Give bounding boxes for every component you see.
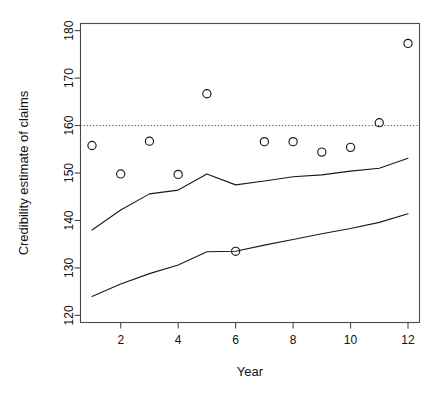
y-tick-label-150: 150 (62, 163, 76, 183)
y-tick-label-180: 180 (62, 20, 76, 40)
x-tick-label-6: 6 (232, 333, 239, 347)
x-tick-label-8: 8 (290, 333, 297, 347)
y-tick-label-120: 120 (62, 305, 76, 325)
x-tick-label-12: 12 (401, 333, 415, 347)
chart-background (0, 0, 434, 397)
y-tick-label-160: 160 (62, 115, 76, 135)
x-tick-label-2: 2 (117, 333, 124, 347)
y-tick-label-130: 130 (62, 258, 76, 278)
chart-svg: 120130140150160170180 24681012 Year Cred… (0, 0, 434, 397)
y-tick-label-140: 140 (62, 210, 76, 230)
x-tick-label-10: 10 (344, 333, 358, 347)
y-axis-title: Credibility estimate of claims (16, 90, 31, 255)
x-axis-title: Year (237, 364, 264, 379)
y-tick-label-170: 170 (62, 68, 76, 88)
x-tick-label-4: 4 (175, 333, 182, 347)
credibility-estimate-chart: 120130140150160170180 24681012 Year Cred… (0, 0, 434, 397)
